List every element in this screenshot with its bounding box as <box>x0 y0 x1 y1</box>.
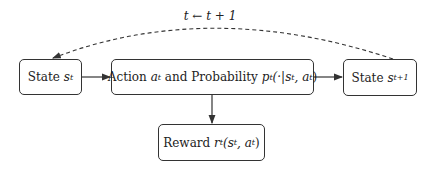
node-state-t1: State st+1 <box>343 59 417 96</box>
edge-loop-dashed <box>53 28 393 59</box>
node-reward: Reward rt(st, at) <box>158 124 265 161</box>
loop-label: t ← t + 1 <box>0 9 420 23</box>
node-action-probability: Action at and Probability pt(·|st, at) <box>111 59 314 95</box>
node-state-t: State st <box>19 59 82 95</box>
